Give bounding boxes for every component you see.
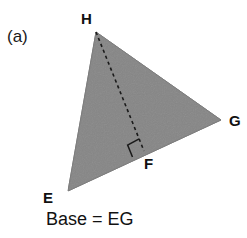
vertex-label-g: G xyxy=(229,113,241,128)
triangle-diagram-svg xyxy=(0,0,247,238)
vertex-label-h: H xyxy=(81,11,92,26)
vertex-label-e: E xyxy=(43,190,53,205)
vertex-label-f: F xyxy=(144,156,153,171)
base-caption: Base = EG xyxy=(46,209,134,229)
geometry-figure-panel-a: (a) H G F E Base = EG xyxy=(0,0,247,238)
panel-label: (a) xyxy=(7,28,28,46)
